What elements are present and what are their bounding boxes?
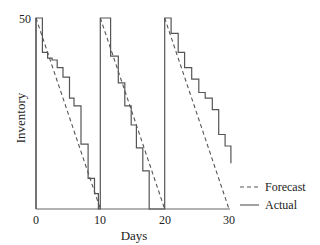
legend-actual-label: Actual	[265, 198, 298, 212]
y-axis-label: Inventory	[13, 92, 28, 143]
forecast-line	[36, 18, 100, 209]
forecast-series	[36, 18, 229, 209]
actual-series	[36, 18, 231, 209]
x-tick-10: 10	[94, 213, 106, 227]
legend-forecast-label: Forecast	[265, 180, 306, 194]
forecast-line	[100, 18, 164, 209]
y-tick-50: 50	[19, 12, 31, 26]
x-tick-30: 30	[223, 213, 235, 227]
forecast-line	[165, 18, 229, 209]
x-tick-0: 0	[33, 213, 39, 227]
legend: Forecast Actual	[240, 180, 306, 212]
actual-line	[36, 18, 231, 209]
inventory-chart: 50 0 10 20 30 Days Inventory Forecast Ac…	[0, 0, 320, 245]
x-tick-20: 20	[159, 213, 171, 227]
x-axis-label: Days	[121, 228, 148, 243]
